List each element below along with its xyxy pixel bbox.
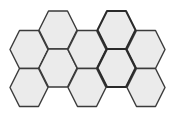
hex-cells-group bbox=[10, 11, 165, 107]
hex-grid-diagram bbox=[0, 0, 178, 116]
hex-cell-c3-r1 bbox=[98, 49, 136, 87]
hex-cell-c3-r0 bbox=[98, 11, 136, 49]
